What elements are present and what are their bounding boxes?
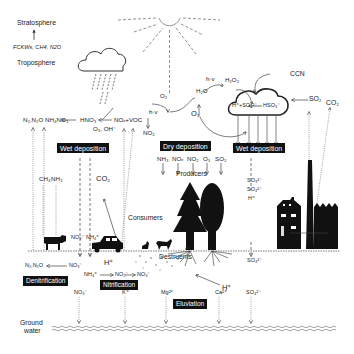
eluviation-so4: SO₄²⁻ xyxy=(246,290,261,296)
soil-no3-den: NO₃⁻ xyxy=(69,263,83,269)
soil-nh4-nit: NH₄⁺ xyxy=(84,272,97,278)
al3-label: Al³⁺ xyxy=(185,246,194,251)
ground-water-waves xyxy=(52,326,336,331)
cloud-reaction-bisulfite: HSO₃⁻ xyxy=(263,103,280,109)
h2o-label: H₂O xyxy=(196,88,208,94)
wet-deposition-right-box: Wet deposition xyxy=(233,143,285,153)
stratosphere-gases-label: FCKWs, CH4, N2O xyxy=(13,45,61,51)
nitrification-box: Nitrification xyxy=(100,280,138,290)
house-icon xyxy=(277,197,301,249)
acid-cloud-icon xyxy=(229,89,289,145)
soil-so4-label: SO₄²⁻ xyxy=(247,258,262,264)
stratosphere-label: Stratosphere xyxy=(17,20,56,27)
hno3-label: HNO₃ xyxy=(80,117,96,123)
nh4no3-label: NH₄NO₃ xyxy=(45,117,68,123)
deciduous-tree-icon xyxy=(200,183,224,250)
soil-no2-nit: NO₂⁻ xyxy=(115,272,128,278)
soil-nh4-in: NH₄⁺ xyxy=(86,235,99,241)
troposphere-label: Troposphere xyxy=(17,60,55,67)
nh3-label: NH₃ xyxy=(51,176,62,182)
dry-species-nh3: NH₃ xyxy=(157,156,168,162)
consumers-label: Consumers xyxy=(128,215,163,222)
dry-species-nox: NOₓ xyxy=(172,156,183,162)
wet-deposition-left-box: Wet deposition xyxy=(57,143,109,153)
nox-voc-label: NOₓ+VOC xyxy=(114,117,142,123)
eluviation-no3: NO₃⁻ xyxy=(74,290,88,296)
dry-species-o3: O₃ xyxy=(203,156,210,162)
co2-left-label: CO₂ xyxy=(96,175,110,183)
soil-no3-in: NO₃⁻ xyxy=(71,235,85,241)
soil-n2-n2o-den: N₂,N₂O xyxy=(25,263,43,269)
h2o2-label: H₂O₂ xyxy=(225,77,239,83)
o2-label: O₂ xyxy=(160,93,167,99)
o3-oh-label: O₃, OH⁻ xyxy=(93,126,116,132)
no2-label: NO₂ xyxy=(143,130,155,136)
hv-label-2: h·v xyxy=(206,76,215,82)
dry-species-so2: SO₂ xyxy=(215,156,226,162)
cow-icon xyxy=(44,235,66,250)
ion-so4: SO₄²⁻ xyxy=(247,187,262,193)
eluviation-mg: Mg²⁺ xyxy=(161,290,173,296)
water-label: water xyxy=(24,328,41,335)
hv-label-1: h·v xyxy=(149,109,158,115)
n2-n2o-label: N₂,N₂O xyxy=(23,117,43,123)
sun-icon xyxy=(118,18,220,95)
cloud-reaction-products: H⁺+SO₄²⁻ xyxy=(232,103,257,109)
destruents-label: Destruents xyxy=(159,254,192,261)
o3-label: O₃ xyxy=(191,110,200,118)
co2-factory-label: CO₂ xyxy=(326,100,339,107)
h-plus-soil-left: H⁺ xyxy=(104,259,113,267)
producers-label: Producers xyxy=(176,171,207,178)
ion-so3: SO₃²⁻ xyxy=(247,178,262,184)
soil-no3-nit: NO₃⁻ xyxy=(137,272,151,278)
acid-deposition-diagram: Stratosphere FCKWs, CH4, N2O Troposphere… xyxy=(0,0,354,354)
rain-cloud-icon xyxy=(78,48,125,104)
ground-label: Ground xyxy=(20,320,43,327)
eluviation-box: Eluviation xyxy=(173,299,207,309)
denitrification-box: Denitrification xyxy=(23,276,68,286)
dry-species-no2: NO₂ xyxy=(187,156,199,162)
ccn-label: CCN xyxy=(290,71,305,78)
ion-h: H⁺ xyxy=(248,196,255,202)
dry-deposition-box: Dry deposition xyxy=(160,141,211,151)
ch4-label: CH₄ xyxy=(39,176,50,182)
eluviation-ca: Ca²⁺ xyxy=(215,290,227,296)
so2-right-label: SO₂ xyxy=(309,96,321,103)
eluviation-k: K⁺ xyxy=(122,290,129,296)
small-animals-icon xyxy=(142,239,172,250)
